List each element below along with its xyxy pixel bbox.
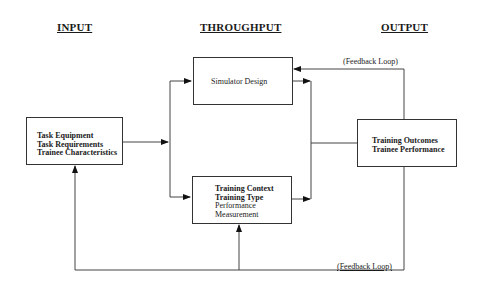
output-box: Training Outcomes Trainee Performance <box>357 119 457 167</box>
feedback-loop-label-top: (Feedback Loop) <box>343 57 398 66</box>
feedback-loop-label-bottom: (Feedback Loop) <box>337 262 392 271</box>
output-line: Trainee Performance <box>372 146 444 155</box>
training-line: Measurement <box>215 211 274 220</box>
simulator-line: Simulator Design <box>211 78 267 87</box>
input-box: Task Equipment Task Requirements Trainee… <box>26 117 123 165</box>
training-context-box: Training Context Training Type Performan… <box>192 176 292 224</box>
simulator-design-box: Simulator Design <box>193 57 293 105</box>
input-line: Trainee Characteristics <box>37 149 117 158</box>
